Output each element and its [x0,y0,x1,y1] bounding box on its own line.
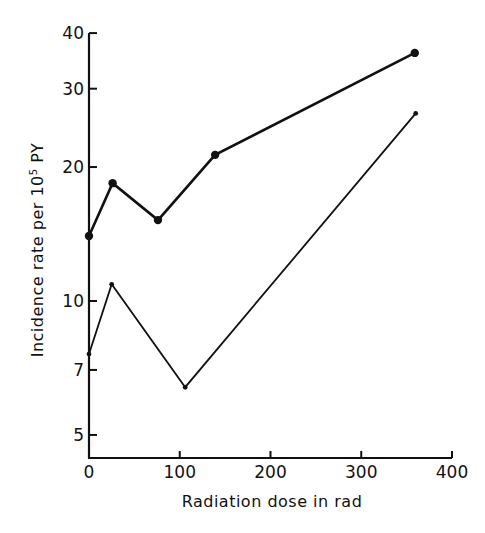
y-tick-label: 5 [73,425,84,445]
y-tick-label: 20 [62,157,84,177]
series-line [89,53,415,236]
y-axis-title-unit: PY [28,143,47,169]
x-tick-label: 100 [164,462,196,482]
y-tick-label: 7 [73,360,84,380]
series-upper [85,49,419,240]
x-tick-label: 200 [254,462,286,482]
x-tick-label: 400 [436,462,468,482]
x-axis-title: Radiation dose in rad [182,492,363,511]
data-point-marker [154,216,162,224]
data-point-marker [109,282,114,287]
y-tick-label: 10 [62,291,84,311]
x-tick-label: 0 [84,462,95,482]
y-tick-label: 40 [62,23,84,43]
axes [88,33,452,458]
y-axis-title-superscript: 5 [28,168,39,175]
data-point-marker [108,179,116,187]
x-tick-label: 300 [345,462,377,482]
chart: 0100200300400 5710203040 Radiation dose … [0,0,485,533]
y-axis-title-main: Incidence rate per 10 [28,175,47,357]
data-series [85,49,419,390]
data-point-marker [411,49,419,57]
series-lower [87,111,419,390]
data-point-marker [85,232,93,240]
data-point-marker [183,385,188,390]
y-tick-label: 30 [62,79,84,99]
x-axis-ticks: 0100200300400 [84,451,469,482]
y-axis-title: Incidence rate per 105 PY [28,143,47,358]
data-point-marker [413,111,418,116]
data-point-marker [211,151,219,159]
data-point-marker [87,352,92,357]
series-line [89,113,416,387]
